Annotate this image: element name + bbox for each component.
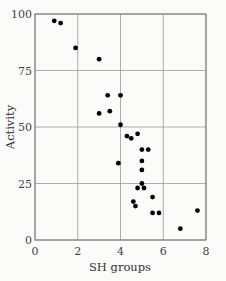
data-point [150, 210, 155, 215]
data-point [125, 134, 130, 139]
data-point [131, 199, 136, 204]
data-point [139, 147, 144, 152]
y-axis-label: Activity [3, 104, 17, 150]
data-point [118, 122, 123, 127]
data-point [52, 18, 57, 23]
data-point [105, 93, 110, 98]
data-point [58, 21, 63, 26]
data-point [139, 159, 144, 164]
data-point [139, 168, 144, 173]
x-tick-label: 6 [160, 245, 167, 258]
data-point [97, 57, 102, 62]
y-tick-label: 100 [11, 8, 32, 21]
data-point [135, 186, 140, 191]
data-point [157, 210, 162, 215]
data-point [150, 195, 155, 200]
data-point [129, 136, 134, 141]
data-point [135, 131, 140, 136]
data-point [133, 204, 138, 209]
scatter-plot: 024680255075100 SH groups Activity [0, 0, 226, 281]
data-point [116, 161, 121, 166]
data-point [195, 208, 200, 213]
data-point [139, 181, 144, 186]
axis-ticks: 024680255075100 [11, 8, 210, 258]
data-point [107, 109, 112, 114]
chart-container: 024680255075100 SH groups Activity [0, 0, 226, 281]
x-tick-label: 2 [74, 245, 81, 258]
data-point [118, 93, 123, 98]
data-point [142, 186, 147, 191]
y-tick-label: 0 [25, 234, 32, 247]
y-tick-label: 25 [18, 178, 32, 191]
data-point [97, 111, 102, 116]
y-tick-label: 75 [18, 65, 32, 78]
x-tick-label: 8 [203, 245, 210, 258]
x-tick-label: 0 [32, 245, 39, 258]
data-point [146, 147, 151, 152]
x-axis-label: SH groups [89, 260, 151, 274]
data-point [178, 226, 183, 231]
y-tick-label: 50 [18, 121, 32, 134]
data-points [52, 18, 200, 231]
x-tick-label: 4 [117, 245, 124, 258]
data-point [73, 46, 78, 51]
